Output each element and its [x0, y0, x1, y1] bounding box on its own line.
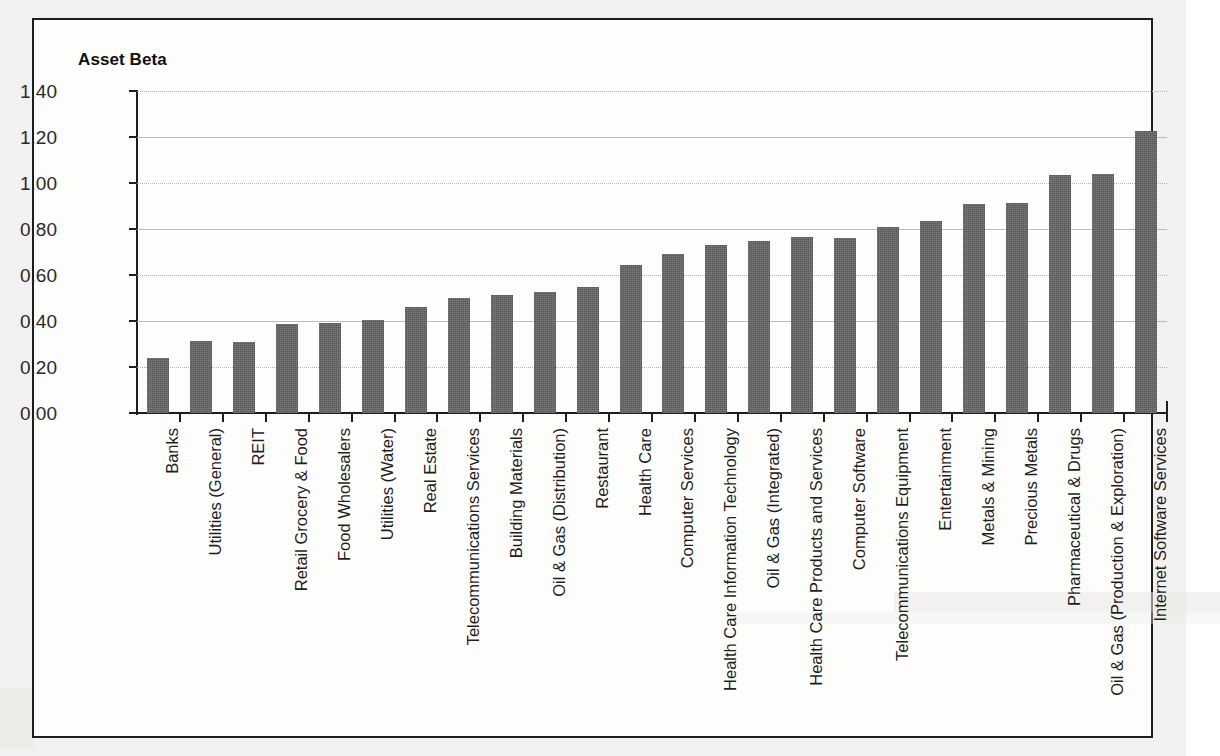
x-axis-tick-label: Health Care: [637, 428, 654, 516]
x-axis-tick-label: Precious Metals: [1023, 428, 1040, 545]
bar: [577, 287, 599, 414]
y-axis-tick-label: 0.20: [0, 358, 57, 377]
scan-artifact: [0, 688, 34, 748]
bar: [1092, 174, 1114, 413]
bar: [963, 204, 985, 413]
x-axis-tick: [394, 413, 396, 422]
x-axis-tick-label: Utilities (General): [207, 428, 224, 555]
x-axis-tick: [1166, 413, 1168, 422]
y-axis-tick-label: 1.40: [0, 82, 57, 101]
bar: [662, 254, 684, 413]
x-axis-tick: [737, 413, 739, 422]
x-axis-tick: [265, 413, 267, 422]
bar: [190, 341, 212, 413]
x-axis-tick: [308, 413, 310, 422]
y-axis-tick-label: 0.40: [0, 312, 57, 331]
bar: [319, 323, 341, 413]
x-axis-tick: [565, 413, 567, 422]
x-axis-tick-label: Health Care Information Technology: [722, 428, 739, 691]
x-axis-tick-label: Oil & Gas (Production & Exploration): [1109, 428, 1126, 696]
x-axis-tick-label: Banks: [164, 428, 181, 474]
x-axis-tick-label: Utilities (Water): [379, 428, 396, 540]
x-axis-tick-label: Retail Grocery & Food: [293, 428, 310, 591]
plot-area: [137, 91, 1167, 413]
x-axis-tick-label: Real Estate: [422, 428, 439, 513]
x-axis-tick: [866, 413, 868, 422]
bar: [147, 358, 169, 413]
bar: [448, 298, 470, 413]
bar: [491, 295, 513, 413]
y-axis-tick-label: 0.80: [0, 220, 57, 239]
x-axis-tick-label: Internet Software Services: [1152, 428, 1169, 622]
x-axis-tick-label: Computer Software: [851, 428, 868, 570]
page-title: Asset Beta: [78, 50, 167, 70]
bar: [362, 320, 384, 413]
x-axis-tick: [994, 413, 996, 422]
x-axis-tick-label: Oil & Gas (Integrated): [765, 428, 782, 588]
x-axis-tick: [179, 413, 181, 422]
x-axis-tick-label: Telecommunications Equipment: [894, 428, 911, 661]
bar: [877, 227, 899, 413]
chart-sheet: Asset Beta 1.401.201.000.800.600.400.200…: [32, 18, 1153, 738]
x-axis-tick-label: Health Care Products and Services: [808, 428, 825, 686]
x-axis-tick: [608, 413, 610, 422]
x-axis-tick: [479, 413, 481, 422]
x-axis-tick: [1123, 413, 1125, 422]
bar: [1049, 175, 1071, 413]
y-axis-tick-label: 0.60: [0, 266, 57, 285]
x-axis-tick-label: Restaurant: [594, 428, 611, 509]
gridline: [137, 137, 1167, 138]
bar: [405, 307, 427, 413]
x-axis-tick: [694, 413, 696, 422]
bar: [534, 292, 556, 413]
bar: [620, 265, 642, 413]
bar: [276, 324, 298, 413]
y-axis-tick-label: 1.20: [0, 128, 57, 147]
x-axis-tick: [522, 413, 524, 422]
x-axis-tick-label: Pharmaceutical & Drugs: [1066, 428, 1083, 606]
gridline: [137, 91, 1167, 92]
bar: [705, 245, 727, 413]
bar: [1006, 203, 1028, 413]
x-axis-tick-label: Building Materials: [508, 428, 525, 558]
gridline: [137, 183, 1167, 184]
y-axis-tick-label: 1.00: [0, 174, 57, 193]
x-axis-tick: [222, 413, 224, 422]
x-axis-tick: [1037, 413, 1039, 422]
x-axis-tick: [651, 413, 653, 422]
bar: [748, 241, 770, 414]
x-axis-tick-label: Telecommunications Services: [465, 428, 482, 645]
bar: [834, 238, 856, 413]
x-axis-tick-label: Food Wholesalers: [336, 428, 353, 561]
x-axis-tick-label: REIT: [250, 428, 267, 466]
bar: [791, 237, 813, 413]
x-axis-tick: [436, 413, 438, 422]
x-axis-tick: [951, 413, 953, 422]
bar: [1135, 131, 1157, 413]
x-axis-tick: [823, 413, 825, 422]
x-axis-tick: [351, 413, 353, 422]
x-axis-tick: [1080, 413, 1082, 422]
bar: [233, 342, 255, 413]
bar: [920, 221, 942, 413]
x-axis-tick-label: Entertainment: [937, 428, 954, 531]
x-axis-tick-label: Oil & Gas (Distribution): [551, 428, 568, 597]
x-axis-tick: [909, 413, 911, 422]
x-axis-tick-label: Computer Services: [679, 428, 696, 568]
x-axis-tick: [780, 413, 782, 422]
y-axis-tick-label: 0.00: [0, 404, 57, 423]
x-axis-tick-label: Metals & Mining: [980, 428, 997, 545]
scan-artifact: [894, 592, 1220, 612]
